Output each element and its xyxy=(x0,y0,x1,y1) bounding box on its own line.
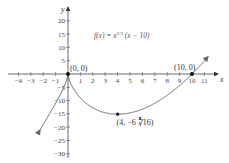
x-tick-label: 5 xyxy=(128,77,132,85)
x-tick-label: 1 xyxy=(79,77,83,85)
x-tick-label: 2 xyxy=(91,77,95,85)
minimum-point xyxy=(116,113,119,116)
x-axis-label: x xyxy=(219,75,224,84)
y-tick-label: −30 xyxy=(54,150,65,158)
y-tick-label: −20 xyxy=(54,124,65,132)
function-title: f(x) = x2/3 (x − 10) xyxy=(94,31,150,40)
y-tick-label: 15 xyxy=(58,31,66,39)
y-tick-label: −25 xyxy=(54,137,65,145)
y-tick-label: −15 xyxy=(54,110,65,118)
x-tick-label: 11 xyxy=(201,77,208,85)
origin-label: (0, 0) xyxy=(70,64,88,73)
root-label: (10, 0) xyxy=(174,63,196,72)
x-tick-label: 3 xyxy=(103,77,107,85)
x-tick-label: 7 xyxy=(153,77,157,85)
x-tick-label: −3 xyxy=(27,77,35,85)
minimum-label: (4, −6 ∛16) xyxy=(117,117,154,127)
y-tick-label: −5 xyxy=(58,84,66,92)
x-tick-label: 8 xyxy=(165,77,169,85)
root-point xyxy=(190,72,194,76)
x-tick-label: −4 xyxy=(15,77,23,85)
x-tick-label: 4 xyxy=(116,77,120,85)
y-tick-label: 5 xyxy=(62,57,66,65)
x-tick-label: 10 xyxy=(189,77,197,85)
function-graph: xy −4−3−2−112345678910112015105−5−10−15−… xyxy=(0,0,229,163)
y-tick-label: 10 xyxy=(58,44,66,52)
key-points: (0, 0)(10, 0)(4, −6 ∛16) xyxy=(66,63,196,127)
y-axis-label: y xyxy=(60,5,65,14)
y-tick-label: 20 xyxy=(58,17,66,25)
x-tick-label: −2 xyxy=(39,77,47,85)
x-tick-label: 6 xyxy=(141,77,145,85)
